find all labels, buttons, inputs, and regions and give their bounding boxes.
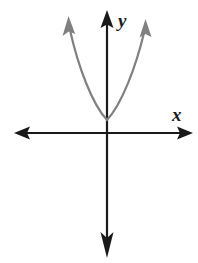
parabola-right-arrowhead bbox=[140, 19, 152, 38]
graph-figure: y x bbox=[0, 0, 198, 263]
x-axis-label: x bbox=[172, 105, 182, 124]
parabola-left-arrowhead bbox=[63, 16, 76, 36]
x-axis bbox=[14, 127, 193, 140]
coordinate-plane-svg bbox=[0, 0, 198, 263]
y-axis-label: y bbox=[118, 11, 126, 30]
